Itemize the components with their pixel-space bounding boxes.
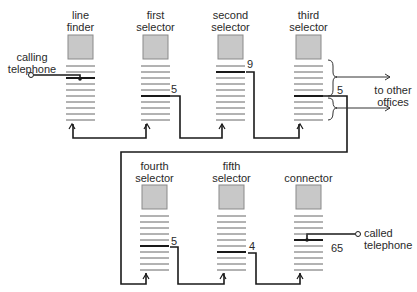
line-finder-box — [68, 35, 93, 59]
digit-third-selector: 5 — [337, 84, 343, 96]
fifth-selector-switch — [217, 185, 246, 279]
label-third-selector: thirdselector — [281, 9, 336, 33]
wiper-dot-line-finder — [78, 77, 82, 81]
digit-first-selector: 5 — [171, 83, 177, 95]
first-selector-switch — [141, 35, 170, 129]
up-arrow-icon — [220, 274, 226, 279]
called-telephone-terminal — [356, 232, 361, 237]
digit-fifth-selector: 4 — [249, 240, 255, 252]
line-finder-switch — [66, 35, 95, 129]
fifth-selector-box — [219, 185, 244, 209]
switching-diagram: linefinder firstselector secondselector … — [0, 0, 417, 292]
connector-box — [296, 185, 321, 209]
link-second-third — [246, 72, 299, 138]
label-second-selector: secondselector — [203, 9, 258, 33]
up-arrow-icon — [144, 124, 150, 129]
digit-fourth-selector: 5 — [171, 235, 177, 247]
label-line-finder: linefinder — [58, 9, 103, 33]
third-selector-switch — [294, 35, 323, 129]
label-fourth-selector: fourthselector — [127, 160, 182, 184]
label-other-offices: to otheroffices — [370, 84, 416, 108]
link-lf-first — [73, 124, 146, 138]
first-selector-box — [143, 35, 168, 59]
label-calling-telephone: callingtelephone — [4, 51, 60, 75]
link-fourth-fifth — [170, 247, 224, 284]
label-first-selector: firstselector — [128, 9, 183, 33]
up-arrow-icon — [69, 124, 75, 129]
digit-connector: 65 — [331, 242, 343, 254]
second-selector-box — [218, 35, 243, 59]
diagram-canvas — [0, 0, 417, 292]
label-connector: connector — [281, 172, 336, 184]
fourth-selector-box — [142, 185, 167, 209]
link-first-second — [170, 96, 222, 138]
link-fifth-connector — [248, 253, 300, 284]
fourth-selector-switch — [140, 185, 169, 279]
second-selector-switch — [216, 35, 245, 129]
up-arrow-icon — [297, 124, 303, 129]
wiper-dot-connector — [305, 238, 309, 242]
label-fifth-selector: fifthselector — [204, 160, 259, 184]
connector-switch — [294, 185, 323, 279]
label-called-telephone: calledtelephone — [364, 227, 417, 251]
third-selector-box — [296, 35, 321, 59]
digit-second-selector: 9 — [247, 58, 253, 70]
